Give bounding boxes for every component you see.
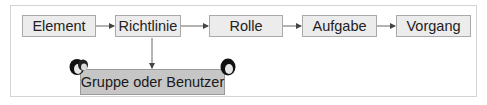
node-aufgabe[interactable]: Aufgabe bbox=[302, 15, 377, 37]
node-rolle[interactable]: Rolle bbox=[209, 15, 283, 37]
node-richtlinie[interactable]: Richtlinie bbox=[115, 15, 181, 37]
node-vorgang[interactable]: Vorgang bbox=[396, 15, 471, 37]
node-element[interactable]: Element bbox=[22, 15, 96, 37]
user-group-icon bbox=[68, 57, 90, 79]
user-icon bbox=[218, 57, 238, 79]
node-gruppe-oder-benutzer[interactable]: Gruppe oder Benutzer bbox=[80, 69, 225, 95]
